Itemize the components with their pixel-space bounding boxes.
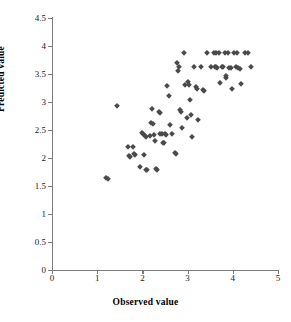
y-tick-label: 1 — [0, 210, 46, 219]
scatter-plot-figure: 00.511.522.533.544.5 012345 Predicted va… — [0, 0, 291, 322]
x-axis-title: Observed value — [0, 297, 291, 307]
y-axis-title: Predicted value — [0, 46, 6, 112]
x-tick-label: 3 — [178, 274, 198, 283]
y-tick-label: 3 — [0, 98, 46, 107]
x-tick-label: 0 — [42, 274, 62, 283]
y-tick-label: 4.5 — [0, 14, 46, 23]
x-tick-label: 1 — [87, 274, 107, 283]
y-tick-label: 3.5 — [0, 70, 46, 79]
x-tick-label: 2 — [132, 274, 152, 283]
x-tick-label: 4 — [223, 274, 243, 283]
y-tick-label: 4 — [0, 42, 46, 51]
y-tick-label: 0 — [0, 266, 46, 275]
y-tick-label: 2.5 — [0, 126, 46, 135]
y-tick-label: 0.5 — [0, 238, 46, 247]
y-tick-label: 2 — [0, 154, 46, 163]
y-tick-label: 1.5 — [0, 182, 46, 191]
x-tick-label: 5 — [268, 274, 288, 283]
